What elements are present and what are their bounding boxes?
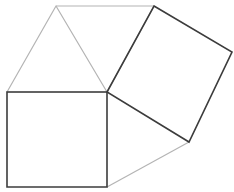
top-triangle: [7, 6, 107, 92]
diagram-svg: [0, 0, 234, 192]
geometry-diagram: [0, 0, 234, 192]
top-rhombus-edge: [56, 6, 154, 92]
light-lines: [7, 6, 189, 187]
bottom-left-square: [7, 92, 107, 187]
top-right-square: [107, 6, 232, 142]
bottom-connector-line: [107, 142, 189, 187]
